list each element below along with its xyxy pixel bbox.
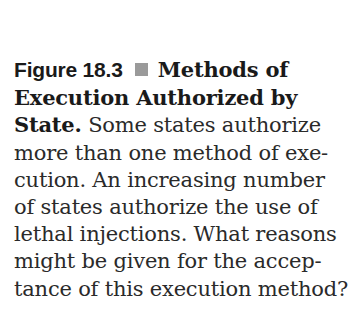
- caption-title-part-2: Execution Authorized by: [14, 84, 359, 111]
- caption-body-line: lethal injections. What reasons: [14, 221, 359, 248]
- caption-body-line: of states authorize the use of: [14, 194, 359, 221]
- square-bullet-icon: [135, 63, 148, 76]
- caption-title-part-3: State.: [14, 112, 82, 137]
- caption-line-3: State. Some states authorize: [14, 111, 359, 139]
- caption-title-part-1: Methods of: [158, 57, 288, 82]
- caption-body-first: Some states authorize: [88, 113, 321, 137]
- caption-body-line: tance of this execution method?: [14, 276, 359, 303]
- caption-body-line: more than one method of exe-: [14, 140, 359, 167]
- figure-caption: Figure 18.3Methods of Execution Authoriz…: [14, 56, 359, 303]
- caption-body-line: might be given for the accep-: [14, 248, 359, 275]
- figure-label: Figure 18.3: [14, 58, 123, 81]
- caption-line-1: Figure 18.3Methods of: [14, 56, 359, 84]
- caption-body-line: cution. An increasing number: [14, 167, 359, 194]
